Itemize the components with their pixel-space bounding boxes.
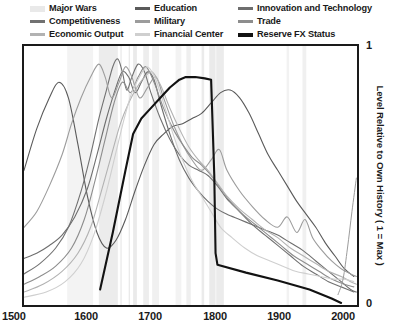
legend-label-financial-center: Financial Center (154, 29, 223, 40)
legend-label-innovation-and-technology: Innovation and Technology (257, 3, 372, 14)
legend-item-reserve-fx-status[interactable]: Reserve FX Status (238, 28, 360, 41)
legend-label-economic-output: Economic Output (49, 29, 123, 40)
legend-swatch-economic-output (30, 33, 45, 36)
legend-label-military: Military (154, 16, 185, 27)
legend-label-reserve-fx-status: Reserve FX Status (257, 29, 335, 40)
legend-swatch-education (135, 7, 150, 10)
x-tick-1600: 1600 (74, 310, 98, 322)
legend-label-competitiveness: Competitiveness (49, 16, 120, 27)
legend-item-education[interactable]: Education (135, 2, 238, 15)
legend-swatch-military (135, 20, 150, 23)
y-axis-title: Level Relative to Own History ( 1 = Max … (368, 44, 394, 307)
legend-item-trade[interactable]: Trade (238, 15, 360, 28)
legend-swatch-competitiveness (30, 20, 45, 23)
chart-screenshot: Major Wars Education Innovation and Tech… (0, 0, 399, 331)
legend-swatch-innovation-and-technology (238, 7, 253, 10)
legend-item-innovation-and-technology[interactable]: Innovation and Technology (238, 2, 360, 15)
war-band (287, 46, 290, 305)
war-band (176, 46, 182, 305)
legend-swatch-reserve-fx-status (238, 33, 253, 37)
plot-canvas (24, 46, 357, 305)
x-tick-1800: 1800 (203, 310, 227, 322)
x-tick-1900: 1900 (267, 310, 291, 322)
plot-area (22, 44, 359, 307)
war-band (202, 46, 205, 305)
chart-legend: Major Wars Education Innovation and Tech… (30, 2, 360, 41)
legend-item-financial-center[interactable]: Financial Center (135, 28, 238, 41)
legend-item-major-wars[interactable]: Major Wars (30, 2, 135, 15)
legend-swatch-trade (238, 20, 253, 23)
legend-label-education: Education (154, 3, 197, 14)
legend-label-trade: Trade (257, 16, 281, 27)
series-line (338, 178, 356, 295)
legend-item-military[interactable]: Military (135, 15, 238, 28)
legend-swatch-financial-center (135, 33, 150, 36)
legend-swatch-major-wars (30, 6, 45, 12)
legend-item-economic-output[interactable]: Economic Output (30, 28, 135, 41)
legend-label-major-wars: Major Wars (49, 3, 97, 14)
x-axis: 1500 1600 1700 1800 1900 2000 (0, 310, 399, 330)
x-tick-2000: 2000 (331, 310, 355, 322)
war-band (67, 46, 93, 305)
x-tick-1700: 1700 (138, 310, 162, 322)
x-tick-1500: 1500 (2, 310, 26, 322)
legend-item-competitiveness[interactable]: Competitiveness (30, 15, 135, 28)
